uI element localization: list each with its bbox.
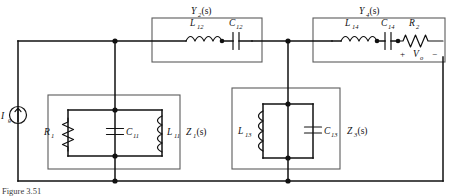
figure-caption: Figure 3.51 [2, 186, 41, 196]
node-z1-top [112, 107, 117, 112]
block-label-z1-arg: (s) [197, 127, 207, 138]
source-label-subscript: g [8, 116, 12, 123]
circuit-schematic: I g L 12 C 12 Y 2 (s) L 14 C 14 [0, 0, 462, 196]
capacitor-c13-subscript: 13 [331, 131, 338, 138]
inductor-l14-symbol [341, 37, 377, 42]
inductor-l11-subscript: 11 [174, 132, 180, 139]
inductor-l14-label: L [344, 18, 350, 28]
block-label-y4-arg: (s) [370, 6, 380, 17]
circuit-figure: I g L 12 C 12 Y 2 (s) L 14 C 14 [0, 0, 462, 196]
node-z1-bottom [112, 153, 117, 158]
inductor-l11-label: L [166, 127, 172, 137]
node-bottom-z1 [112, 178, 117, 183]
block-box-y2 [152, 18, 262, 62]
inductor-l13-label: L [237, 126, 243, 136]
node-top-z3 [285, 38, 290, 43]
node-bottom-z3 [285, 178, 290, 183]
output-minus-sign: − [432, 49, 437, 59]
inductor-l13-subscript: 13 [245, 131, 252, 138]
capacitor-c14-subscript: 14 [388, 23, 395, 30]
resistor-r2-label: R [408, 18, 415, 28]
output-voltage-subscript: o [420, 54, 424, 61]
node-top-z1 [112, 38, 117, 43]
capacitor-c11-subscript: 11 [133, 132, 139, 139]
capacitor-c11-label: C [126, 127, 133, 137]
node-z3-bottom [285, 155, 290, 160]
capacitor-c14-label: C [381, 18, 388, 28]
capacitor-c13-label: C [324, 126, 331, 136]
block-label-z1: Z [186, 127, 192, 137]
resistor-r1-subscript: 1 [51, 132, 54, 139]
block-label-y2: Y [191, 6, 198, 16]
capacitor-c12-subscript: 12 [236, 23, 243, 30]
inductor-l14-subscript: 14 [352, 23, 359, 30]
block-label-z3: Z [347, 126, 353, 136]
block-label-y2-arg: (s) [202, 6, 212, 17]
output-plus-sign: + [400, 49, 405, 59]
inductor-l12-symbol [186, 37, 222, 42]
resistor-r2-subscript: 2 [416, 23, 420, 30]
output-voltage-label: V [413, 49, 420, 59]
node-z3-top [285, 101, 290, 106]
capacitor-c12-label: C [229, 18, 236, 28]
inductor-l12-label: L [189, 18, 195, 28]
block-label-z3-arg: (s) [358, 126, 368, 137]
resistor-r2-symbol [398, 35, 443, 47]
inductor-l12-subscript: 12 [197, 23, 204, 30]
resistor-r1-label: R [43, 127, 50, 137]
source-label: I [0, 111, 5, 121]
block-label-y4: Y [359, 6, 366, 16]
